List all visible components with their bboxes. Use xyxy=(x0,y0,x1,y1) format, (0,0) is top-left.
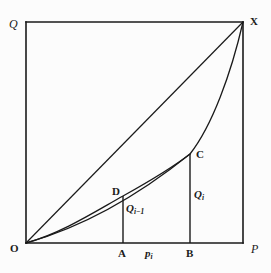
label-curve-point-d: D xyxy=(112,186,120,197)
label-corner-q: Q xyxy=(9,18,18,30)
label-quantity-current-subscript: i xyxy=(202,193,204,202)
diagram-canvas xyxy=(0,0,271,273)
label-quantity-current: Qi xyxy=(194,189,204,202)
label-curve-point-c: C xyxy=(196,149,204,160)
label-corner-p: P xyxy=(251,243,258,255)
label-corner-o: O xyxy=(10,243,19,254)
label-price-interval-subscript: i xyxy=(151,252,153,261)
label-quantity-current-base: Q xyxy=(194,188,202,200)
label-quantity-previous-base: Q xyxy=(126,202,134,214)
label-price-interval: pi xyxy=(145,248,153,261)
label-axis-point-a: A xyxy=(118,248,126,259)
label-quantity-previous-subscript: i−1 xyxy=(134,207,144,216)
label-corner-x: X xyxy=(250,16,258,27)
label-axis-point-b: B xyxy=(186,248,193,259)
chord-line-oc xyxy=(26,154,190,243)
figure-container: Q X O P A B C D pi Qi−1 Qi xyxy=(0,0,271,273)
label-quantity-previous: Qi−1 xyxy=(126,203,144,216)
